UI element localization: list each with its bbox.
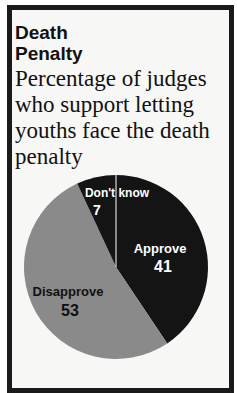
- value-disapprove: 53: [61, 302, 79, 319]
- label-dont-know: Don't know: [85, 186, 150, 200]
- value-approve: 41: [154, 258, 172, 275]
- label-disapprove: Disapprove: [33, 284, 104, 299]
- value-dont-know: 7: [93, 202, 101, 218]
- label-approve: Approve: [134, 241, 187, 256]
